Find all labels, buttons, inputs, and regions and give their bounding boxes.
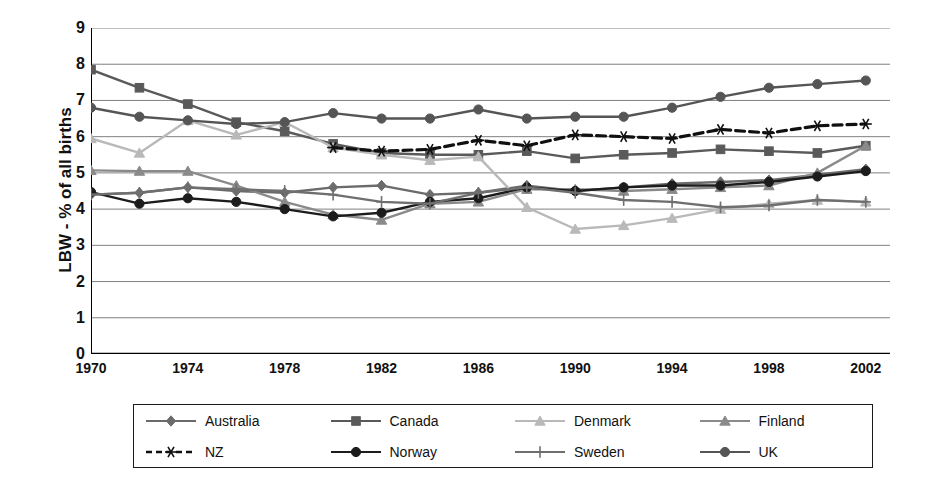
legend-key-svg xyxy=(698,444,752,460)
data-point-square xyxy=(571,154,580,163)
legend-item-norway[interactable]: Norway xyxy=(319,444,504,460)
legend-item-denmark[interactable]: Denmark xyxy=(503,413,688,429)
data-point-circle xyxy=(720,447,729,456)
legend-key-square-icon xyxy=(329,413,383,429)
legend-row: NZNorwaySwedenUK xyxy=(134,436,872,467)
marker-circle xyxy=(619,183,628,192)
marker-square xyxy=(91,65,95,74)
marker-square xyxy=(571,154,580,163)
series-line xyxy=(91,81,866,124)
marker-circle xyxy=(764,177,773,186)
data-point-circle xyxy=(813,80,822,89)
marker-circle xyxy=(619,112,628,121)
data-point-square xyxy=(91,65,95,74)
grid-lines xyxy=(91,28,890,318)
x-axis-tick-labels: 197019741978198219861990199419982002 xyxy=(91,360,890,384)
data-point-circle xyxy=(522,114,531,123)
data-point-circle xyxy=(351,447,360,456)
data-point-plus xyxy=(618,194,628,206)
legend-item-sweden[interactable]: Sweden xyxy=(503,444,688,460)
data-point-circle xyxy=(667,103,676,112)
data-point-plus xyxy=(279,185,289,197)
legend-item-nz[interactable]: NZ xyxy=(134,444,319,460)
marker-square xyxy=(813,149,822,158)
legend-label: NZ xyxy=(205,444,224,460)
legend-key-triangle-icon xyxy=(698,413,752,429)
legend-key-svg xyxy=(144,444,198,460)
x-tick-label: 1994 xyxy=(657,360,688,376)
legend-key-circle-icon xyxy=(698,444,752,460)
marker-circle xyxy=(571,112,580,121)
data-point-plus xyxy=(134,187,144,199)
marker-circle xyxy=(764,83,773,92)
data-point-circle xyxy=(425,114,434,123)
legend-label: Sweden xyxy=(574,444,625,460)
marker-square xyxy=(351,416,360,425)
data-point-square xyxy=(716,145,725,154)
data-point-asterisk xyxy=(618,131,630,141)
data-point-circle xyxy=(716,92,725,101)
marker-circle xyxy=(377,208,386,217)
data-point-circle xyxy=(91,103,96,112)
legend-label: Australia xyxy=(205,413,259,429)
legend-item-australia[interactable]: Australia xyxy=(134,413,319,429)
data-point-asterisk xyxy=(569,130,581,140)
data-point-circle xyxy=(764,177,773,186)
x-tick-label: 1998 xyxy=(753,360,784,376)
marker-circle xyxy=(329,212,338,221)
marker-square xyxy=(619,150,628,159)
data-point-square xyxy=(184,100,193,109)
data-point-circle xyxy=(135,199,144,208)
x-tick-label: 1990 xyxy=(560,360,591,376)
legend-key-circle-icon xyxy=(329,444,383,460)
data-point-circle xyxy=(813,172,822,181)
data-point-asterisk xyxy=(666,133,678,143)
y-axis-tick-labels: 0123456789 xyxy=(55,28,85,354)
legend-label: Finland xyxy=(759,413,805,429)
chart-legend: AustraliaCanadaDenmarkFinlandNZNorwaySwe… xyxy=(133,404,873,468)
legend-item-finland[interactable]: Finland xyxy=(688,413,873,429)
legend-key-asterisk-icon xyxy=(144,444,198,460)
marker-square xyxy=(184,100,193,109)
data-point-circle xyxy=(329,212,338,221)
data-point-diamond xyxy=(166,415,175,425)
legend-key-svg xyxy=(698,413,752,429)
data-point-circle xyxy=(619,112,628,121)
plot-svg xyxy=(91,28,890,354)
data-point-plus xyxy=(376,196,386,208)
y-tick-label: 8 xyxy=(61,55,85,73)
data-point-circle xyxy=(377,114,386,123)
marker-circle xyxy=(813,80,822,89)
marker-circle xyxy=(232,119,241,128)
y-tick-label: 7 xyxy=(61,91,85,109)
plot-area xyxy=(91,28,890,354)
legend-item-uk[interactable]: UK xyxy=(688,444,873,460)
data-point-circle xyxy=(280,205,289,214)
marker-square xyxy=(135,83,144,92)
marker-circle xyxy=(861,76,870,85)
marker-circle xyxy=(425,114,434,123)
data-point-circle xyxy=(764,83,773,92)
legend-key-svg xyxy=(144,413,198,429)
x-tick-label: 1986 xyxy=(463,360,494,376)
y-tick-label: 6 xyxy=(61,128,85,146)
data-point-asterisk xyxy=(165,446,177,456)
marker-square xyxy=(765,147,774,156)
data-point-asterisk xyxy=(811,121,823,131)
marker-square xyxy=(716,145,725,154)
legend-label: Norway xyxy=(390,444,437,460)
y-tick-label: 4 xyxy=(61,200,85,218)
data-point-asterisk xyxy=(860,119,872,129)
marker-circle xyxy=(135,199,144,208)
y-tick-label: 1 xyxy=(61,309,85,327)
x-tick-label: 1974 xyxy=(172,360,203,376)
data-point-triangle xyxy=(91,133,96,142)
marker-circle xyxy=(716,92,725,101)
marker-circle xyxy=(280,118,289,127)
data-point-square xyxy=(523,147,532,156)
data-point-circle xyxy=(329,109,338,118)
legend-label: Canada xyxy=(390,413,439,429)
data-point-circle xyxy=(232,197,241,206)
data-point-circle xyxy=(861,166,870,175)
legend-item-canada[interactable]: Canada xyxy=(319,413,504,429)
